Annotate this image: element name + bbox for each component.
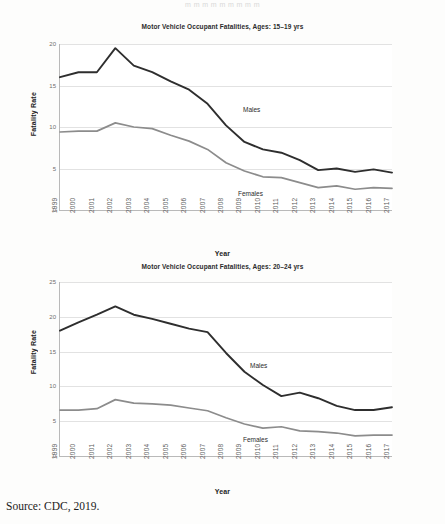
y-axis-tick-label: 10 <box>49 124 56 130</box>
series-lines <box>60 44 392 210</box>
plot-area: 0510152025199920002001200220032004200520… <box>59 282 392 457</box>
series-label-females: Females <box>243 436 268 443</box>
x-axis-tick-label: 1999 <box>51 444 58 459</box>
chart-title: Motor Vehicle Occupant Fatalities, Ages:… <box>0 263 445 270</box>
plot-area: 0510152019992000200120022003200420052006… <box>59 44 392 211</box>
y-axis-tick-label: 5 <box>53 418 56 424</box>
x-axis-title: Year <box>0 250 445 257</box>
series-line-males <box>60 48 392 172</box>
y-axis-title: Fatality Rate <box>30 330 37 374</box>
x-axis-tick-label: 1999 <box>51 198 58 213</box>
series-label-males: Males <box>250 362 267 369</box>
y-axis-tick-label: 25 <box>49 279 56 285</box>
chart-ages-15-19: Motor Vehicle Occupant Fatalities, Ages:… <box>0 18 445 266</box>
series-label-females: Females <box>238 190 263 197</box>
y-axis-tick-label: 20 <box>49 314 56 320</box>
y-axis-tick-label: 10 <box>49 383 56 389</box>
cut-off-header-fragment: m m m m m m m m m <box>0 0 445 9</box>
chart-ages-20-24: Motor Vehicle Occupant Fatalities, Ages:… <box>0 258 445 500</box>
source-note: Source: CDC, 2019. <box>6 500 99 512</box>
series-lines <box>60 282 392 456</box>
y-axis-tick-label: 15 <box>49 349 56 355</box>
y-axis-title: Fatality Rate <box>30 92 37 136</box>
y-axis-tick-label: 15 <box>49 83 56 89</box>
figure-page: m m m m m m m m m Motor Vehicle Occupant… <box>0 0 445 524</box>
chart-title: Motor Vehicle Occupant Fatalities, Ages:… <box>0 23 445 30</box>
y-axis-tick-label: 5 <box>53 166 56 172</box>
y-axis-tick-label: 20 <box>49 41 56 47</box>
x-axis-title: Year <box>0 488 445 495</box>
series-line-males <box>60 306 392 410</box>
series-label-males: Males <box>243 106 260 113</box>
series-line-females <box>60 400 392 436</box>
series-line-females <box>60 123 392 189</box>
